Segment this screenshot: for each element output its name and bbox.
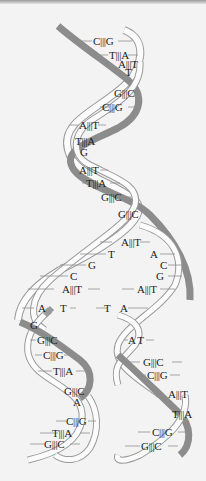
base-label: G [30,319,38,331]
base-label: G [156,270,164,282]
base-label: T [60,302,67,314]
base-pair-label: A|||T [79,119,99,131]
base-pair-label: G|||C [118,208,138,220]
base-pair-label: C|||G [66,415,87,427]
base-pair-label: T|||A [172,408,192,420]
base-pair-label: A|||T [121,236,141,248]
base-label: G [80,146,88,158]
base-pair-label: G|||C [141,440,161,452]
base-label: A [150,248,158,260]
base-label: T [104,302,111,314]
base-pair-label: T|||A [53,365,73,377]
dna-replication-figure: C|||G T|||A A|||T T G|||C C|||G A|||T T|… [0,0,206,481]
base-pair-label: C|||G [147,369,168,381]
base-pair-label: G|||C [114,87,134,99]
base-pair-label: T|||A [86,177,106,189]
base-label: T [108,248,115,260]
base-pair-label: G|||C [37,334,57,346]
base-label: A [73,396,81,408]
dna-diagram: C|||G T|||A A|||T T G|||C C|||G A|||T T|… [0,0,206,481]
base-pair-label: A|||T [62,283,82,295]
base-pair-label: C|||G [102,101,123,113]
base-pair-label: G|||C [44,438,64,450]
base-pair-label: C|||G [152,426,173,438]
base-label: G [88,259,96,271]
base-pair-label: C|||G [93,35,114,47]
base-pair-label: G|||C [101,191,121,203]
base-label: T [125,66,132,78]
base-pair-label: G|||C [143,356,163,368]
base-label: C [70,270,77,282]
base-pair-label: C|||G [43,349,64,361]
base-pair-label: A|||T [168,388,188,400]
base-label: A T [128,334,144,346]
base-pair-label: A|||T [137,283,157,295]
base-label: A [38,302,46,314]
base-label: A [120,302,128,314]
base-pair-label: A|||T [79,164,99,176]
